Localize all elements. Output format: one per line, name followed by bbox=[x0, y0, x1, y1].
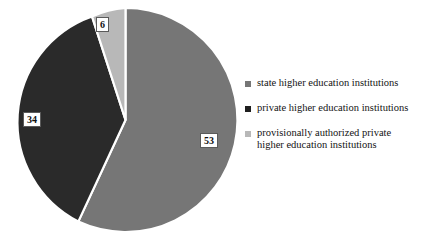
legend-label-line2: higher education institutions bbox=[257, 139, 391, 151]
legend-label-line1: private higher education institutions bbox=[257, 102, 408, 113]
data-label-provisional: 6 bbox=[96, 17, 109, 32]
legend-item-provisional[interactable]: provisionally authorized private higher … bbox=[245, 127, 433, 151]
legend-item-label: provisionally authorized private higher … bbox=[257, 127, 391, 151]
legend-swatch-icon bbox=[245, 106, 251, 112]
legend-item-state[interactable]: state higher education institutions bbox=[245, 77, 433, 89]
legend: state higher education institutions priv… bbox=[245, 77, 433, 164]
pie-graphic: 6 34 53 bbox=[0, 0, 245, 242]
legend-label-line1: provisionally authorized private bbox=[257, 127, 391, 138]
legend-label-line1: state higher education institutions bbox=[257, 77, 398, 88]
legend-item-label: private higher education institutions bbox=[257, 102, 408, 114]
legend-swatch-icon bbox=[245, 81, 251, 87]
data-label-private: 34 bbox=[23, 112, 41, 127]
legend-item-private[interactable]: private higher education institutions bbox=[245, 102, 433, 114]
legend-swatch-icon bbox=[245, 131, 251, 137]
data-label-state: 53 bbox=[200, 133, 218, 148]
pie-chart: 6 34 53 state higher education instituti… bbox=[0, 0, 433, 242]
legend-item-label: state higher education institutions bbox=[257, 77, 398, 89]
